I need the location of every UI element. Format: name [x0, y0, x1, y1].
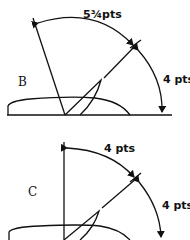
hull-outline-c — [9, 225, 130, 240]
angle-label-b2: 4 pts — [163, 73, 190, 86]
figure-label-c: C — [28, 185, 37, 199]
figure-b: 5¾pts 4 pts B — [7, 8, 190, 115]
angle-line-b — [104, 44, 137, 78]
reference-line-b — [33, 18, 65, 115]
angle-label-c2: 4 pts — [162, 199, 190, 212]
hull-outline-b — [8, 97, 130, 115]
figure-c: 4 pts 4 pts C — [9, 142, 190, 240]
angle-line-c — [102, 178, 137, 208]
figure-label-b: B — [18, 75, 27, 89]
arc-arrow-b1 — [38, 17, 133, 45]
arc-arrow-b2 — [138, 50, 162, 112]
arc-arrow-c2 — [139, 182, 161, 237]
angle-label-b1: 5¾pts — [83, 8, 122, 21]
diagram-canvas: 5¾pts 4 pts B 4 pts 4 pts C — [0, 0, 190, 240]
angle-label-c1: 4 pts — [104, 142, 136, 155]
